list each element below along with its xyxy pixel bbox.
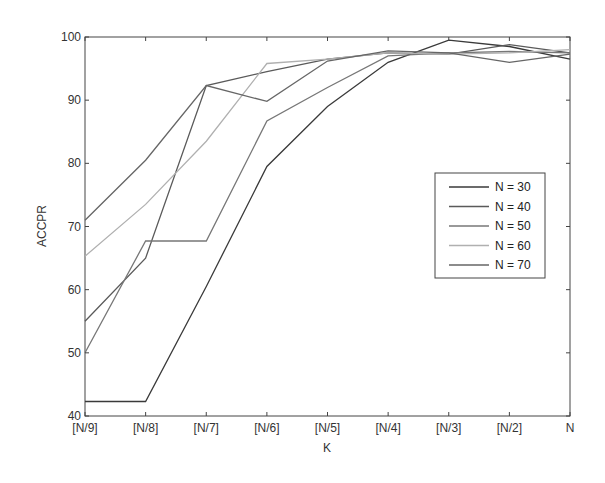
- legend: N = 30N = 40N = 50N = 60N = 70: [435, 173, 545, 278]
- x-tick-label: [N/2]: [497, 421, 522, 435]
- y-tick-label: 70: [68, 220, 82, 234]
- y-tick-label: 40: [68, 409, 82, 423]
- legend-label: N = 60: [495, 239, 531, 253]
- x-axis-label: K: [323, 441, 331, 455]
- legend-label: N = 30: [495, 180, 531, 194]
- y-tick-label: 90: [68, 93, 82, 107]
- x-tick-label: [N/4]: [375, 421, 400, 435]
- y-tick-label: 80: [68, 156, 82, 170]
- x-tick-label: [N/7]: [194, 421, 219, 435]
- x-tick-label: [N/3]: [436, 421, 461, 435]
- line-chart: [N/9][N/8][N/7][N/6][N/5][N/4][N/3][N/2]…: [0, 0, 605, 483]
- legend-label: N = 50: [495, 219, 531, 233]
- x-tick-label: N: [566, 421, 575, 435]
- y-axis-label: ACCPR: [35, 205, 49, 247]
- y-tick-label: 100: [61, 30, 81, 44]
- y-tick-label: 50: [68, 346, 82, 360]
- x-tick-label: [N/9]: [72, 421, 97, 435]
- x-tick-label: [N/6]: [254, 421, 279, 435]
- x-tick-label: [N/5]: [315, 421, 340, 435]
- y-tick-label: 60: [68, 283, 82, 297]
- legend-label: N = 70: [495, 258, 531, 272]
- legend-label: N = 40: [495, 200, 531, 214]
- x-tick-label: [N/8]: [133, 421, 158, 435]
